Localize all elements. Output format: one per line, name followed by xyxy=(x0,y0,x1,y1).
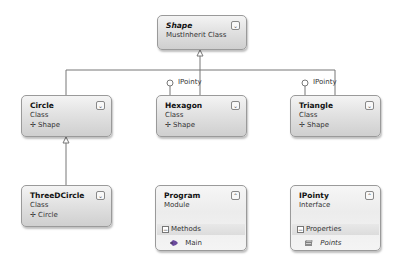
collapse-toggle-icon[interactable]: ⌄ xyxy=(231,21,240,30)
class-circle[interactable]: Circle Class ✢ Shape ⌄ xyxy=(21,95,112,137)
collapse-toggle-icon[interactable]: ⌄ xyxy=(96,191,105,200)
properties-section-header[interactable]: − Properties xyxy=(292,224,379,235)
section-collapse-icon[interactable]: − xyxy=(162,226,169,233)
hexagon-ipointy-label: IPointy xyxy=(178,78,202,86)
class-kind: Class xyxy=(165,111,183,119)
member-points[interactable]: Points xyxy=(305,239,342,247)
class-name: Shape xyxy=(166,21,192,30)
collapse-toggle-icon[interactable]: ⌄ xyxy=(365,101,374,110)
class-name: Hexagon xyxy=(165,101,202,110)
class-kind: MustInherit Class xyxy=(166,31,226,39)
interface-kind: Interface xyxy=(299,201,330,209)
class-name: ThreeDCircle xyxy=(30,191,84,200)
base-class: ✢ Shape xyxy=(30,121,60,129)
class-kind: Class xyxy=(299,111,317,119)
class-name: Triangle xyxy=(299,101,333,110)
expand-toggle-icon[interactable]: ⌃ xyxy=(365,191,374,200)
class-kind: Class xyxy=(30,111,48,119)
class-name: Circle xyxy=(30,101,54,110)
module-kind: Module xyxy=(164,201,189,209)
interface-name: IPointy xyxy=(299,191,329,200)
class-kind: Class xyxy=(30,201,48,209)
class-triangle[interactable]: Triangle Class ✢ Shape ⌄ xyxy=(290,95,381,137)
class-shape[interactable]: Shape MustInherit Class ⌄ xyxy=(157,15,247,50)
triangle-ipointy-label: IPointy xyxy=(313,78,337,86)
expand-toggle-icon[interactable]: ⌃ xyxy=(231,191,240,200)
interface-ipointy[interactable]: IPointy Interface ⌃ − Properties Points xyxy=(290,185,381,251)
section-label: Properties xyxy=(306,225,341,233)
class-hexagon[interactable]: Hexagon Class ✢ Shape ⌄ xyxy=(156,95,247,137)
collapse-toggle-icon[interactable]: ⌄ xyxy=(231,101,240,110)
member-label: Points xyxy=(320,239,341,247)
module-program[interactable]: Program Module ⌃ − Methods Main xyxy=(155,185,247,251)
base-class: ✢ Shape xyxy=(299,121,329,129)
module-name: Program xyxy=(164,191,200,200)
section-label: Methods xyxy=(171,225,201,233)
collapse-toggle-icon[interactable]: ⌄ xyxy=(96,101,105,110)
method-icon xyxy=(170,240,178,246)
member-main[interactable]: Main xyxy=(170,239,202,247)
base-class: ✢ Shape xyxy=(165,121,195,129)
section-collapse-icon[interactable]: − xyxy=(297,226,304,233)
member-label: Main xyxy=(185,239,202,247)
class-threedcircle[interactable]: ThreeDCircle Class ✢ Circle ⌄ xyxy=(21,185,112,227)
property-icon xyxy=(305,240,313,246)
base-class: ✢ Circle xyxy=(30,211,58,219)
methods-section-header[interactable]: − Methods xyxy=(157,224,245,235)
